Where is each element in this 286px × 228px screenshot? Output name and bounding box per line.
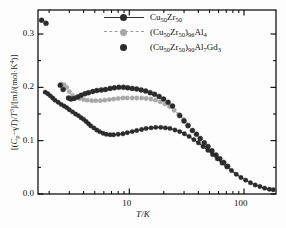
ytick-label-0: 0.0 — [8, 188, 34, 198]
y-axis-title: [(Cp−γT)/T3]/[mJ/(mol·K4)] — [8, 22, 21, 182]
legend-key-marker-only — [104, 42, 144, 53]
xtick-label-10: 10 — [122, 198, 131, 208]
legend-entry-0: Cu50Zr50 — [104, 10, 254, 25]
chart-legend: Cu50Zr50 (Cu50Zr50)96Al4 (Cu50Zr50)90Al7… — [104, 10, 254, 55]
legend-key-line-marker — [104, 12, 144, 23]
legend-entry-1: (Cu50Zr50)96Al4 — [104, 25, 254, 40]
xtick-label-100: 100 — [234, 198, 248, 208]
legend-label-0: Cu50Zr50 — [144, 12, 182, 23]
x-axis-title: T/K — [0, 209, 286, 219]
legend-entry-2: (Cu50Zr50)90Al7Gd3 — [104, 40, 254, 55]
legend-label-1: (Cu50Zr50)96Al4 — [144, 27, 207, 38]
legend-label-2: (Cu50Zr50)90Al7Gd3 — [144, 42, 221, 53]
chart-figure: 0.0 0.1 0.2 0.3 10 100 T/K [(Cp−γT)/T3]/… — [0, 0, 286, 228]
legend-key-dashed-marker — [104, 27, 144, 38]
